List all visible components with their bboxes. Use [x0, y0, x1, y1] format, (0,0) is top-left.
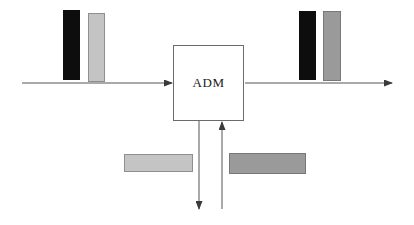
- add-channel-bar-gray: [229, 153, 306, 174]
- adm-node-label: ADM: [192, 75, 224, 91]
- west-channel-bar-light: [88, 13, 105, 82]
- east-channel-bar-gray: [323, 11, 341, 81]
- east-channel-bar-dark: [299, 11, 316, 80]
- drop-channel-bar-light: [124, 154, 193, 172]
- adm-node: ADM: [173, 45, 244, 121]
- west-channel-bar-dark: [63, 10, 80, 80]
- diagram-canvas: ADM: [0, 0, 414, 225]
